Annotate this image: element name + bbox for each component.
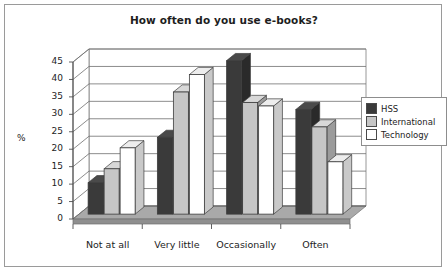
legend-label-hss: HSS [381,104,398,114]
bar-hss[interactable] [88,183,103,214]
bar-hss[interactable] [157,137,172,214]
y-axis-tick-label: 0 [39,213,63,223]
legend-swatch-technology [366,129,377,140]
bar-technology[interactable] [259,106,274,214]
legend-label-international: International [381,117,435,127]
bar-side [343,155,352,214]
y-axis-tick-label: 10 [39,178,63,188]
bar-international[interactable] [104,169,119,214]
y-axis-tick-label: 25 [39,126,63,136]
x-axis-category-label: Often [281,239,350,250]
y-axis-tick-label: 35 [39,91,63,101]
y-axis-tick-label: 45 [39,56,63,66]
y-axis-label: % [17,133,26,143]
legend-item-hss[interactable]: HSS [366,103,443,114]
bar-international[interactable] [312,127,327,214]
y-axis-tick-label: 15 [39,161,63,171]
chart-legend: HSS International Technology [361,97,447,146]
legend-label-technology: Technology [381,130,429,140]
legend-item-international[interactable]: International [366,116,443,127]
bar-international[interactable] [173,92,188,214]
bar-international[interactable] [243,102,258,214]
bar-technology[interactable] [120,148,135,214]
y-axis-tick-label: 5 [39,196,63,206]
bar-side [135,141,144,214]
legend-swatch-hss [366,103,377,114]
x-axis-category-label: Very little [142,239,211,250]
bar-technology[interactable] [189,75,204,215]
bar-side [204,67,213,214]
bar-technology[interactable] [328,162,343,214]
bar-hss[interactable] [296,109,311,214]
y-axis-tick-label: 30 [39,108,63,118]
legend-item-technology[interactable]: Technology [366,129,443,140]
legend-swatch-international [366,116,377,127]
y-axis-tick-label: 40 [39,73,63,83]
x-axis-category-label: Occasionally [212,239,281,250]
bar-side [274,99,283,214]
chart-frame: How often do you use e-books? % 05101520… [4,4,442,267]
y-axis-tick-label: 20 [39,143,63,153]
bar-hss[interactable] [227,61,242,215]
x-axis-category-label: Not at all [73,239,142,250]
